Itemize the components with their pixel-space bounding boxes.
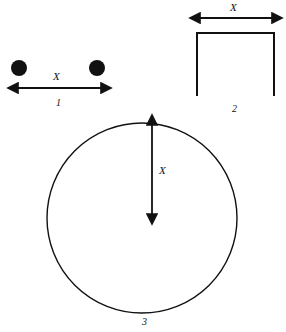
figure-2-group <box>197 18 274 96</box>
figure-3-number-label: 3 <box>142 317 147 327</box>
figure-2-dimension-label: X <box>230 2 237 13</box>
figure-canvas: X 1 X 2 X 3 <box>0 0 286 332</box>
figure-1-dot-right <box>89 60 105 76</box>
figure-3-dimension-label: X <box>159 165 166 176</box>
figure-1-number-label: 1 <box>56 98 61 108</box>
figures-drawing <box>0 0 286 332</box>
figure-2-bracket <box>197 33 274 96</box>
figure-3-circle <box>47 123 237 313</box>
figure-1-dot-left <box>11 60 27 76</box>
figure-2-number-label: 2 <box>232 104 237 114</box>
figure-3-group <box>47 123 237 313</box>
figure-1-dimension-label: X <box>53 71 60 82</box>
